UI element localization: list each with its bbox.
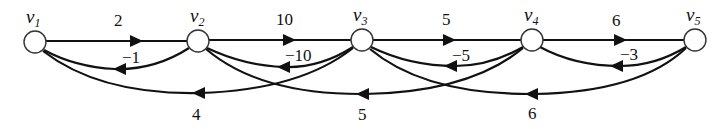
- edge-v5-v4: [540, 47, 686, 66]
- weight-v4-v5: 6: [612, 11, 621, 30]
- node-v2: [187, 30, 209, 52]
- node-v4: [521, 29, 543, 51]
- weight-v2-v3: 10: [276, 10, 293, 29]
- node-label-v4: v4: [524, 4, 538, 28]
- arrowhead-icon: [192, 87, 205, 99]
- node-v3: [351, 29, 373, 51]
- arrowhead-icon: [356, 88, 369, 100]
- edge-v5-v3: [370, 48, 686, 94]
- weight-v3-v1: 4: [192, 105, 201, 124]
- node-v1: [24, 31, 46, 53]
- weight-v5-v3: 6: [528, 104, 537, 123]
- node-label-v1: v1: [26, 6, 40, 30]
- arrowhead-icon: [443, 34, 456, 46]
- weight-v2-v1: −1: [122, 48, 140, 67]
- weight-v5-v4: −3: [620, 45, 638, 64]
- weight-v3-v4: 5: [442, 10, 451, 29]
- weight-v1-v2: 2: [114, 11, 123, 30]
- arrowhead-icon: [130, 35, 143, 47]
- node-v5: [684, 29, 706, 51]
- arrowhead-icon: [283, 34, 296, 46]
- node-label-v5: v5: [686, 4, 700, 28]
- weight-v4-v3: −5: [452, 46, 470, 65]
- arrowhead-icon: [525, 88, 538, 100]
- graph-canvas: v1 v2 v3 v4 v5 2 10 5 6 −1 −10 −5 −3 4 5…: [0, 0, 727, 129]
- node-label-v2: v2: [190, 5, 204, 29]
- weight-v4-v2: 5: [358, 105, 367, 124]
- node-label-v3: v3: [353, 4, 367, 28]
- weight-v3-v2: −10: [285, 46, 312, 65]
